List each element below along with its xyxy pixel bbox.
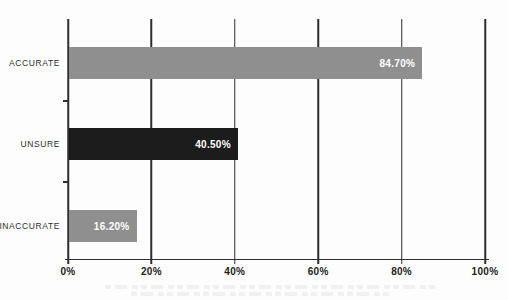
x-axis-tick (484, 259, 486, 264)
x-axis-tick (234, 259, 236, 264)
bar-row-unsure: UNSURE 40.50% (0, 128, 508, 160)
bar-unsure: 40.50% (69, 128, 238, 160)
x-axis-tick-label: 80% (391, 266, 412, 277)
bar-track: 84.70% (69, 47, 486, 79)
bar-chart-figure: 0%20%40%60%80%100% ACCURATE 84.70% UNSUR… (0, 0, 508, 300)
bar-inaccurate: 16.20% (69, 210, 137, 242)
bar-row-inaccurate: INACCURATE 16.20% (0, 210, 508, 242)
x-axis-tick (67, 259, 69, 264)
bar-value-label: 84.70% (379, 58, 415, 69)
x-axis: 0%20%40%60%80%100% (68, 259, 485, 299)
category-label: UNSURE (0, 128, 60, 160)
bar-row-accurate: ACCURATE 84.70% (0, 47, 508, 79)
bar-track: 16.20% (69, 210, 486, 242)
bar-track: 40.50% (69, 128, 486, 160)
bar-value-label: 40.50% (195, 139, 231, 150)
x-axis-tick-label: 100% (472, 266, 499, 277)
y-axis-tick (63, 181, 69, 183)
category-label: INACCURATE (0, 210, 60, 242)
x-axis-tick-label: 60% (308, 266, 329, 277)
x-axis-tick-label: 20% (141, 266, 162, 277)
x-axis-tick (151, 259, 153, 264)
category-label: ACCURATE (0, 47, 60, 79)
x-axis-tick-label: 0% (60, 266, 75, 277)
x-axis-tick (317, 259, 319, 264)
y-axis-tick (63, 100, 69, 102)
x-axis-tick-label: 40% (224, 266, 245, 277)
bar-value-label: 16.20% (94, 221, 130, 232)
bar-accurate: 84.70% (69, 47, 422, 79)
x-axis-tick (401, 259, 403, 264)
